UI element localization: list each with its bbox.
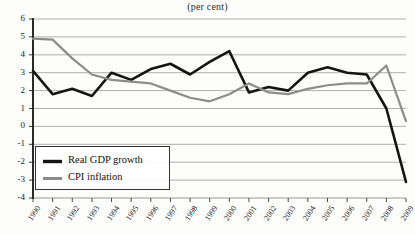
- legend-swatch-gdp: [43, 150, 62, 168]
- x-tick-marks: [33, 198, 406, 202]
- y-tick-label: -2: [3, 157, 25, 166]
- y-tick-label: -4: [3, 193, 25, 202]
- legend-swatch-cpi: [43, 167, 62, 185]
- legend-label-gdp: Real GDP growth: [68, 154, 143, 165]
- y-tick-label: 6: [3, 14, 25, 23]
- y-tick-label: 3: [3, 68, 25, 77]
- chart-legend: Real GDP growth CPI inflation: [35, 146, 170, 190]
- y-tick-label: -3: [3, 175, 25, 184]
- y-tick-label: 4: [3, 50, 25, 59]
- legend-item-cpi: CPI inflation: [43, 169, 123, 183]
- y-tick-label: 0: [3, 121, 25, 130]
- legend-item-gdp: Real GDP growth: [43, 152, 143, 166]
- chart-container: (per cent) 6543210-1-2-3-4 1990199119921…: [0, 0, 415, 234]
- axis-lines: [29, 18, 33, 199]
- y-tick-label: -1: [3, 139, 25, 148]
- legend-label-cpi: CPI inflation: [68, 171, 123, 182]
- y-tick-label: 1: [3, 104, 25, 113]
- y-tick-label: 2: [3, 86, 25, 95]
- chart-plot-svg: [0, 0, 415, 234]
- y-tick-label: 5: [3, 32, 25, 41]
